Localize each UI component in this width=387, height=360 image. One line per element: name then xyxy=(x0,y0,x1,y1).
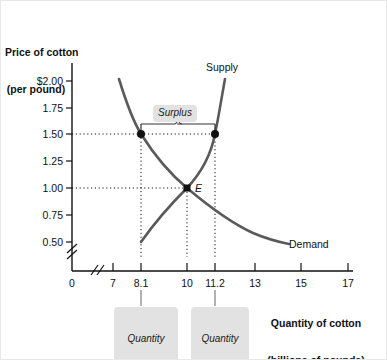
x-tick-label-10: 10 xyxy=(173,277,201,289)
x-tick-label-81: 8.1 xyxy=(125,277,157,289)
surplus-bracket-ends xyxy=(141,124,215,131)
quantity-demanded-callout: Quantity demanded xyxy=(114,307,178,360)
x-tick-label-15: 15 xyxy=(287,277,315,289)
x-tick-label-13: 13 xyxy=(241,277,269,289)
x-axis-title-line1: Quantity of cotton xyxy=(249,317,383,329)
y-tick-label-200: $2.00 xyxy=(13,75,63,87)
surplus-label: Surplus xyxy=(153,105,197,122)
chart-figure: Price of cotton (per pound) $2.00 1.75 1… xyxy=(0,0,387,360)
equilibrium-label: E xyxy=(195,182,202,194)
y-tick-label-125: 1.25 xyxy=(13,155,63,167)
quantity-supplied-point xyxy=(211,130,219,138)
equilibrium-point xyxy=(184,185,191,192)
y-tick-label-075: 0.75 xyxy=(13,209,63,221)
x-axis-title: Quantity of cotton (billions of pounds) xyxy=(249,292,383,360)
supply-curve-label: Supply xyxy=(206,61,238,73)
demand-curve-label: Demand xyxy=(289,238,329,250)
x-axis-break-mark-1 xyxy=(91,265,98,275)
y-tick-label-050: 0.50 xyxy=(13,236,63,248)
x-tick-label-0: 0 xyxy=(58,277,86,289)
demand-curve xyxy=(119,79,289,244)
x-axis-break-mark-2 xyxy=(97,265,104,275)
x-tick-label-7: 7 xyxy=(99,277,127,289)
x-tick-label-17: 17 xyxy=(334,277,362,289)
x-axis-title-line2: (billions of pounds) xyxy=(249,354,383,360)
quantity-supplied-callout: Quantity supplied xyxy=(191,307,249,360)
x-axis-ticks xyxy=(113,263,348,271)
x-tick-label-112: 11.2 xyxy=(198,277,232,289)
y-tick-label-175: 1.75 xyxy=(13,102,63,114)
quantity-demanded-line1: Quantity xyxy=(119,333,173,345)
y-axis-title-line1: Price of cotton xyxy=(5,46,67,58)
y-tick-label-150: 1.50 xyxy=(13,128,63,140)
quantity-demanded-point xyxy=(137,130,145,138)
supply-curve xyxy=(141,79,225,242)
y-tick-label-100: 1.00 xyxy=(13,182,63,194)
quantity-supplied-line1: Quantity xyxy=(196,333,244,345)
